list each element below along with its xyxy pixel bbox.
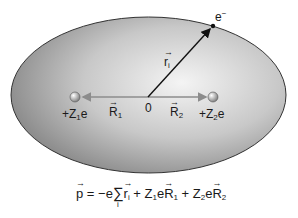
R1-label: R1 [109, 106, 122, 120]
nucleus-1-label: +Z1e [62, 108, 87, 122]
electron-cloud-ellipse [11, 17, 286, 173]
electron-label: e− [215, 10, 226, 23]
nucleus-1 [70, 92, 80, 102]
nucleus-2 [208, 92, 218, 102]
ri-label: ri [164, 56, 170, 70]
electron-dot [211, 24, 215, 28]
R2-label: R2 [170, 106, 183, 120]
nucleus-2-label: +Z2e [199, 108, 224, 122]
dipole-equation: p = −e∑iri + Z1eR1 + Z2eR2 [76, 184, 226, 202]
origin-label: 0 [145, 102, 152, 114]
